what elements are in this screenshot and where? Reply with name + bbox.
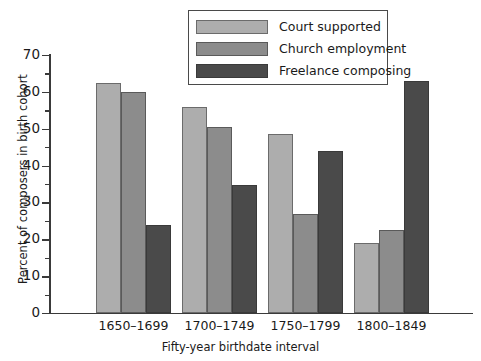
bar-group — [268, 55, 343, 313]
legend-label: Freelance composing — [279, 63, 411, 78]
bar — [121, 92, 146, 313]
plot-area — [50, 55, 422, 313]
y-axis-title: Percent of composers in birth cohort — [16, 74, 30, 284]
bar — [207, 127, 232, 313]
bar — [293, 214, 318, 314]
bar — [96, 83, 121, 313]
bar-group — [354, 55, 429, 313]
bar — [232, 185, 257, 313]
x-tick-label: 1800–1849 — [332, 318, 452, 333]
bar — [268, 134, 293, 313]
bar — [379, 230, 404, 313]
bar-group — [96, 55, 171, 313]
legend-swatch — [196, 64, 268, 78]
y-tick-label: 70 — [4, 48, 40, 62]
bar-group — [182, 55, 257, 313]
bar — [404, 81, 429, 313]
x-axis-title: Fifty-year birthdate interval — [0, 340, 481, 354]
legend-item: Freelance composing — [196, 60, 387, 81]
bar — [146, 225, 171, 313]
bar — [182, 107, 207, 313]
legend-item: Church employment — [196, 38, 387, 59]
y-tick-label: 0 — [4, 306, 40, 320]
chart-figure: 010203040506070 Percent of composers in … — [0, 0, 481, 361]
legend-swatch — [196, 20, 268, 34]
legend-item: Court supported — [196, 16, 387, 37]
legend-label: Court supported — [279, 19, 381, 34]
bar — [354, 243, 379, 313]
bar — [318, 151, 343, 313]
legend-swatch — [196, 42, 268, 56]
legend-label: Church employment — [279, 41, 406, 56]
legend: Court supportedChurch employmentFreelanc… — [188, 10, 388, 85]
